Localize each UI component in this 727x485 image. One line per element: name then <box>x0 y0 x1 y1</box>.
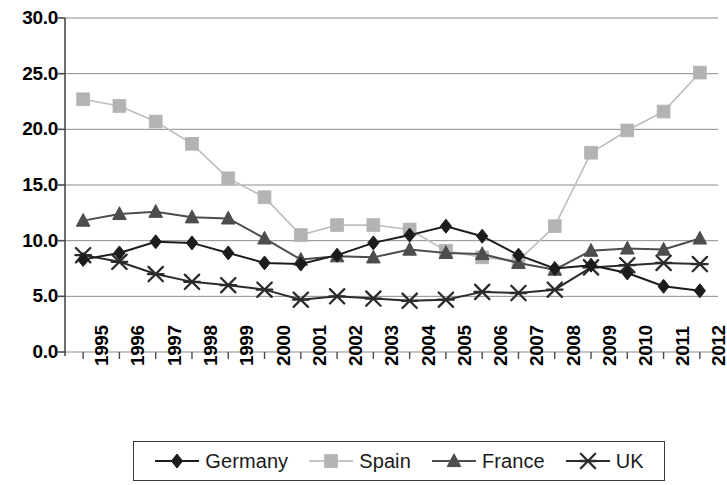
marker-square <box>621 124 634 137</box>
legend-label: France <box>482 450 545 473</box>
legend-item-uk[interactable]: UK <box>555 449 654 473</box>
marker-square <box>294 229 307 242</box>
marker-triangle <box>149 205 163 218</box>
plot-area <box>0 0 727 485</box>
marker-square <box>548 220 561 233</box>
x-tick-label: 1999 <box>236 325 258 366</box>
x-tick-label: 2009 <box>599 325 621 366</box>
legend-item-spain[interactable]: Spain <box>298 449 421 473</box>
legend-marker-square <box>308 449 354 473</box>
line-chart: 30.025.020.015.010.05.00.0 1995199619971… <box>0 0 727 485</box>
x-tick-label: 2008 <box>563 325 585 366</box>
chart-legend: GermanySpainFranceUK <box>133 441 665 481</box>
marker-square <box>367 219 380 232</box>
marker-diamond <box>658 279 669 293</box>
marker-square <box>222 172 235 185</box>
x-tick-label: 2010 <box>635 325 657 366</box>
marker-diamond <box>186 236 197 250</box>
marker-diamond <box>223 246 234 260</box>
marker-diamond <box>694 284 705 298</box>
x-tick-label: 2003 <box>381 325 403 366</box>
marker-square <box>585 146 598 159</box>
x-tick-label: 2006 <box>490 325 512 366</box>
x-tick-label: 2011 <box>672 326 694 366</box>
marker-diamond <box>172 454 183 468</box>
x-tick-label: 2004 <box>418 325 440 366</box>
legend-marker-cross-x <box>565 449 611 473</box>
legend-item-germany[interactable]: Germany <box>144 449 298 473</box>
legend-item-france[interactable]: France <box>421 449 555 473</box>
x-tick-label: 2012 <box>708 325 727 366</box>
marker-square <box>331 219 344 232</box>
series-spain <box>77 66 707 267</box>
marker-square <box>77 93 90 106</box>
legend-marker-diamond <box>154 449 200 473</box>
series-line <box>83 73 700 261</box>
marker-diamond <box>440 219 451 233</box>
legend-marker-triangle <box>431 449 477 473</box>
series-uk <box>75 248 707 308</box>
marker-square <box>186 137 199 150</box>
marker-square <box>113 100 126 113</box>
x-tick-label: 1995 <box>91 325 113 366</box>
marker-triangle <box>258 231 272 244</box>
x-tick-label: 2007 <box>526 325 548 366</box>
marker-square <box>258 191 271 204</box>
x-tick-label: 2001 <box>309 325 331 366</box>
x-tick-label: 1997 <box>164 325 186 366</box>
x-tick-label: 1998 <box>200 325 222 366</box>
series-line <box>83 255 700 301</box>
legend-label: Germany <box>205 450 288 473</box>
marker-square <box>149 115 162 128</box>
legend-label: Spain <box>359 450 411 473</box>
series-germany <box>78 219 706 298</box>
marker-diamond <box>259 256 270 270</box>
marker-diamond <box>150 235 161 249</box>
marker-diamond <box>368 236 379 250</box>
marker-triangle <box>403 242 417 255</box>
marker-triangle <box>693 231 707 244</box>
marker-square <box>693 66 706 79</box>
x-tick-label: 2002 <box>345 325 367 366</box>
x-tick-label: 1996 <box>127 325 149 366</box>
legend-label: UK <box>616 450 644 473</box>
series-line <box>83 226 700 291</box>
marker-square <box>325 455 338 468</box>
marker-square <box>657 105 670 118</box>
x-tick-label: 2000 <box>273 325 295 366</box>
x-tick-label: 2005 <box>454 325 476 366</box>
